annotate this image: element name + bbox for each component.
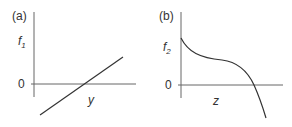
panel-b-tag: (b) [159, 9, 174, 23]
panel-b: (b) 0 f2 z [159, 9, 283, 118]
panel-b-curve [181, 38, 266, 118]
panel-a-line [40, 57, 123, 115]
panel-b-x-label: z [212, 94, 219, 108]
panel-a-x-label: y [87, 93, 95, 107]
panel-b-y-label: f2 [163, 40, 171, 56]
figure: (a) 0 f1 y (b) 0 f2 z [0, 0, 292, 127]
panel-a-zero-label: 0 [18, 77, 25, 91]
panel-a-y-label: f1 [18, 34, 26, 50]
panel-a: (a) 0 f1 y [12, 9, 136, 115]
panel-a-tag: (a) [12, 9, 27, 23]
panel-b-zero-label: 0 [165, 78, 172, 92]
